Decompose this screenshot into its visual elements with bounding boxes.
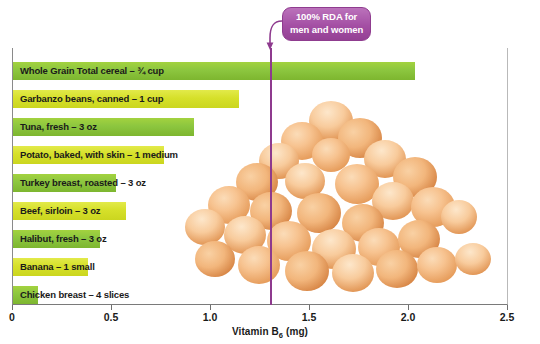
- rda-callout-line2: men and women: [290, 24, 363, 37]
- x-axis-title: Vitamin B6 (mg): [0, 326, 540, 340]
- bar-label: Turkey breast, roasted – 3 oz: [20, 174, 146, 192]
- plot-area: Whole Grain Total cereal – ¾ cup Garbanz…: [12, 48, 508, 305]
- vitamin-b6-food-sources-chart: Whole Grain Total cereal – ¾ cup Garbanz…: [0, 0, 540, 344]
- bar-label: Potato, baked, with skin – 1 medium: [20, 146, 178, 164]
- bar-label: Tuna, fresh – 3 oz: [20, 118, 97, 136]
- x-tick-mark: [111, 305, 112, 310]
- x-axis-title-unit: (mg): [283, 326, 308, 337]
- bar-label: Garbanzo beans, canned – 1 cup: [20, 90, 163, 108]
- x-axis-title-text: Vitamin B: [232, 326, 279, 337]
- x-tick-label: 2.0: [401, 311, 416, 323]
- chickpeas-photo: [171, 89, 501, 304]
- bar-label: Whole Grain Total cereal – ¾ cup: [20, 62, 164, 80]
- bar-label: Beef, sirloin – 3 oz: [20, 202, 100, 220]
- x-tick-label: 0.5: [104, 311, 119, 323]
- bar-label: Chicken breast – 4 slices: [20, 286, 129, 304]
- rda-callout-line1: 100% RDA for: [290, 11, 363, 24]
- x-tick-mark: [12, 305, 13, 310]
- x-tick-mark: [408, 305, 409, 310]
- x-tick-mark: [309, 305, 310, 310]
- x-tick-mark: [210, 305, 211, 310]
- rda-reference-line: [270, 48, 272, 305]
- x-tick-mark: [507, 305, 508, 310]
- bar-label: Banana – 1 small: [20, 258, 95, 276]
- x-tick-label: 1.0: [203, 311, 218, 323]
- x-tick-label: 0: [9, 311, 15, 323]
- x-tick-label: 2.5: [500, 311, 515, 323]
- bar-label: Halibut, fresh – 3 oz: [20, 230, 107, 248]
- rda-callout-label: 100% RDA for men and women: [282, 7, 371, 41]
- x-tick-label: 1.5: [302, 311, 317, 323]
